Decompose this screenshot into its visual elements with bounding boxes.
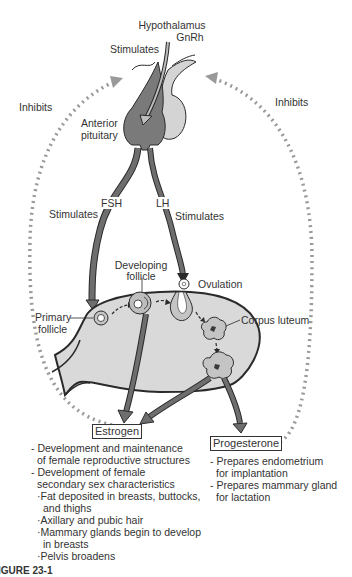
lh-label: LH — [155, 197, 170, 209]
fsh-label: FSH — [100, 197, 123, 209]
gnrh-label: GnRh — [175, 31, 205, 43]
right-feedback-arrowhead — [205, 72, 218, 84]
estrogen-effect-item: secondary sex characteristics — [31, 478, 201, 490]
estrogen-effect-item: ·Axillary and pubic hair — [31, 514, 201, 526]
estrogen-effect-item: of female reproductive structures — [31, 454, 201, 466]
corpus-luteum-label: Corpus luteum — [241, 314, 309, 326]
progesterone-effect-item: for implantation — [210, 467, 337, 479]
released-ovum — [179, 279, 189, 289]
developing-follicle-label-line2: follicle — [112, 270, 170, 282]
progesterone-box: Progesterone — [210, 436, 282, 451]
estrogen-effect-item: and thighs — [31, 502, 201, 514]
estrogen-effect-item: ·Mammary glands begin to develop — [31, 526, 201, 538]
anterior-pituitary-label-line1: Anterior — [81, 117, 118, 129]
estrogen-effect-item: in breasts — [31, 538, 201, 550]
lh-stimulates-label: Stimulates — [175, 210, 224, 222]
ovulation-label: Ovulation — [198, 278, 242, 290]
right-inhibits-label: Inhibits — [275, 96, 308, 108]
figure-caption-fragment: IGURE 23-1 — [0, 565, 52, 577]
anterior-pituitary-label-line2: pituitary — [81, 129, 118, 141]
estrogen-box: Estrogen — [92, 424, 142, 439]
progesterone-effects-list: - Prepares endometrium for implantation … — [210, 455, 337, 503]
anterior-pituitary-lobe — [124, 62, 165, 150]
fsh-stimulates-label: Stimulates — [49, 208, 98, 220]
estrogen-effects-list: - Development and maintenance of female … — [31, 442, 201, 562]
primary-follicle-label-line1: Primary — [35, 311, 71, 323]
follicle-estrogen-arrowhead — [118, 410, 133, 423]
estrogen-effect-item: - Development of female — [31, 466, 201, 478]
left-inhibits-label: Inhibits — [19, 101, 52, 113]
gnrh-stimulates-label: Stimulates — [110, 43, 159, 55]
estrogen-effect-item: ·Fat deposited in breasts, buttocks, — [31, 490, 201, 502]
ovary — [55, 292, 260, 395]
estrogen-effect-item: ·Pelvis broadens — [31, 550, 201, 562]
left-feedback-arrowhead — [110, 76, 123, 88]
progesterone-effect-item: - Prepares endometrium — [210, 455, 337, 467]
progesterone-effect-item: for lactation — [210, 491, 337, 503]
primary-follicle-label-line2: follicle — [38, 323, 67, 335]
progesterone-arrowhead — [233, 423, 247, 433]
infundibulum-left-line — [132, 62, 155, 70]
hypothalamus-label: Hypothalamus — [138, 19, 206, 31]
progesterone-effect-item: - Prepares mammary gland — [210, 479, 337, 491]
estrogen-effect-item: - Development and maintenance — [31, 442, 201, 454]
